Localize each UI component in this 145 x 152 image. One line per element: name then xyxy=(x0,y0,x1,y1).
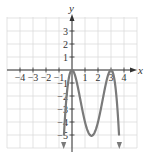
x-tick-label: 1 xyxy=(83,72,88,83)
x-tick-label: 4 xyxy=(122,72,127,83)
graph: −4−3−2−11234321−1−2−3−4−5 x y xyxy=(0,0,145,152)
x-tick-label: 2 xyxy=(96,72,101,83)
y-tick-label: −4 xyxy=(57,117,68,128)
y-tick-label: −1 xyxy=(57,78,68,89)
y-axis-label: y xyxy=(68,2,74,14)
y-tick-label: 1 xyxy=(63,52,68,63)
x-tick-label: −3 xyxy=(28,72,39,83)
x-tick-label: −2 xyxy=(41,72,52,83)
y-tick-label: −5 xyxy=(57,130,68,141)
y-tick-label: 3 xyxy=(63,26,68,37)
y-tick-label: 2 xyxy=(63,39,68,50)
x-axis-label: x xyxy=(137,64,143,76)
x-tick-label: −4 xyxy=(15,72,26,83)
